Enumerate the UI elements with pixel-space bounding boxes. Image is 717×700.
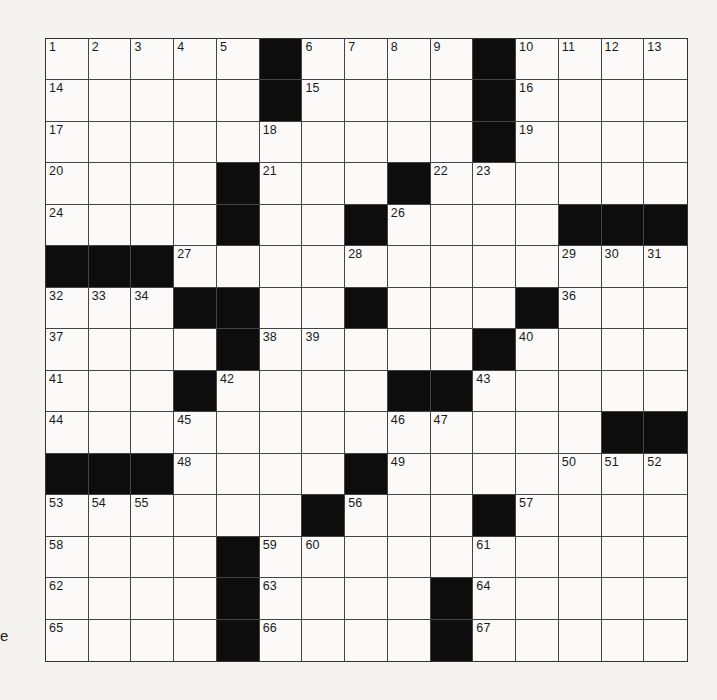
- grid-cell[interactable]: [89, 620, 132, 661]
- grid-cell[interactable]: [89, 412, 132, 453]
- grid-cell[interactable]: 4: [174, 39, 217, 80]
- grid-cell[interactable]: [473, 205, 516, 246]
- grid-cell[interactable]: 22: [431, 163, 474, 204]
- grid-cell[interactable]: [516, 578, 559, 619]
- grid-cell[interactable]: [302, 371, 345, 412]
- grid-cell[interactable]: [388, 246, 431, 287]
- grid-cell[interactable]: [345, 163, 388, 204]
- grid-cell[interactable]: [473, 288, 516, 329]
- grid-cell[interactable]: [388, 537, 431, 578]
- grid-cell[interactable]: 24: [46, 205, 89, 246]
- grid-cell[interactable]: [516, 246, 559, 287]
- grid-cell[interactable]: [345, 122, 388, 163]
- grid-cell[interactable]: [473, 412, 516, 453]
- grid-cell[interactable]: [431, 537, 474, 578]
- grid-cell[interactable]: 38: [260, 329, 303, 370]
- grid-cell[interactable]: [131, 371, 174, 412]
- grid-cell[interactable]: [644, 620, 687, 661]
- grid-cell[interactable]: [302, 454, 345, 495]
- grid-cell[interactable]: 16: [516, 80, 559, 121]
- grid-cell[interactable]: [559, 163, 602, 204]
- grid-cell[interactable]: 13: [644, 39, 687, 80]
- grid-cell[interactable]: [345, 537, 388, 578]
- grid-cell[interactable]: [131, 205, 174, 246]
- grid-cell[interactable]: [260, 495, 303, 536]
- grid-cell[interactable]: [302, 578, 345, 619]
- grid-cell[interactable]: [131, 80, 174, 121]
- grid-cell[interactable]: [302, 163, 345, 204]
- grid-cell[interactable]: [131, 163, 174, 204]
- grid-cell[interactable]: [431, 329, 474, 370]
- grid-cell[interactable]: [131, 578, 174, 619]
- grid-cell[interactable]: 23: [473, 163, 516, 204]
- grid-cell[interactable]: [431, 122, 474, 163]
- grid-cell[interactable]: [388, 578, 431, 619]
- grid-cell[interactable]: [431, 205, 474, 246]
- grid-cell[interactable]: 32: [46, 288, 89, 329]
- grid-cell[interactable]: 15: [302, 80, 345, 121]
- grid-cell[interactable]: [388, 80, 431, 121]
- grid-cell[interactable]: 41: [46, 371, 89, 412]
- grid-cell[interactable]: [602, 371, 645, 412]
- grid-cell[interactable]: 10: [516, 39, 559, 80]
- grid-cell[interactable]: [559, 80, 602, 121]
- grid-cell[interactable]: [174, 329, 217, 370]
- grid-cell[interactable]: [302, 412, 345, 453]
- grid-cell[interactable]: 39: [302, 329, 345, 370]
- grid-cell[interactable]: [345, 80, 388, 121]
- grid-cell[interactable]: [559, 412, 602, 453]
- grid-cell[interactable]: [131, 537, 174, 578]
- grid-cell[interactable]: [644, 80, 687, 121]
- grid-cell[interactable]: [345, 371, 388, 412]
- grid-cell[interactable]: [260, 371, 303, 412]
- grid-cell[interactable]: [644, 163, 687, 204]
- grid-cell[interactable]: 62: [46, 578, 89, 619]
- grid-cell[interactable]: [602, 578, 645, 619]
- grid-cell[interactable]: [217, 80, 260, 121]
- grid-cell[interactable]: [345, 329, 388, 370]
- grid-cell[interactable]: [602, 122, 645, 163]
- grid-cell[interactable]: [644, 122, 687, 163]
- grid-cell[interactable]: [516, 620, 559, 661]
- grid-cell[interactable]: 54: [89, 495, 132, 536]
- grid-cell[interactable]: [174, 537, 217, 578]
- grid-cell[interactable]: [516, 205, 559, 246]
- grid-cell[interactable]: [559, 371, 602, 412]
- grid-cell[interactable]: [431, 495, 474, 536]
- grid-cell[interactable]: 53: [46, 495, 89, 536]
- grid-cell[interactable]: [89, 163, 132, 204]
- grid-cell[interactable]: [89, 205, 132, 246]
- grid-cell[interactable]: 21: [260, 163, 303, 204]
- grid-cell[interactable]: [302, 205, 345, 246]
- grid-cell[interactable]: 56: [345, 495, 388, 536]
- grid-cell[interactable]: [516, 412, 559, 453]
- grid-cell[interactable]: [302, 246, 345, 287]
- grid-cell[interactable]: [174, 495, 217, 536]
- grid-cell[interactable]: 57: [516, 495, 559, 536]
- grid-cell[interactable]: 47: [431, 412, 474, 453]
- grid-cell[interactable]: [131, 122, 174, 163]
- grid-cell[interactable]: 61: [473, 537, 516, 578]
- grid-cell[interactable]: 17: [46, 122, 89, 163]
- grid-cell[interactable]: [516, 537, 559, 578]
- grid-cell[interactable]: [602, 163, 645, 204]
- grid-cell[interactable]: [431, 80, 474, 121]
- grid-cell[interactable]: 43: [473, 371, 516, 412]
- grid-cell[interactable]: 11: [559, 39, 602, 80]
- grid-cell[interactable]: 29: [559, 246, 602, 287]
- grid-cell[interactable]: 30: [602, 246, 645, 287]
- grid-cell[interactable]: [174, 578, 217, 619]
- grid-cell[interactable]: [516, 371, 559, 412]
- grid-cell[interactable]: [559, 578, 602, 619]
- grid-cell[interactable]: 31: [644, 246, 687, 287]
- grid-cell[interactable]: [302, 288, 345, 329]
- grid-cell[interactable]: 33: [89, 288, 132, 329]
- grid-cell[interactable]: [644, 537, 687, 578]
- grid-cell[interactable]: 2: [89, 39, 132, 80]
- grid-cell[interactable]: 66: [260, 620, 303, 661]
- grid-cell[interactable]: 63: [260, 578, 303, 619]
- grid-cell[interactable]: [431, 288, 474, 329]
- grid-cell[interactable]: 50: [559, 454, 602, 495]
- grid-cell[interactable]: [89, 371, 132, 412]
- grid-cell[interactable]: [644, 329, 687, 370]
